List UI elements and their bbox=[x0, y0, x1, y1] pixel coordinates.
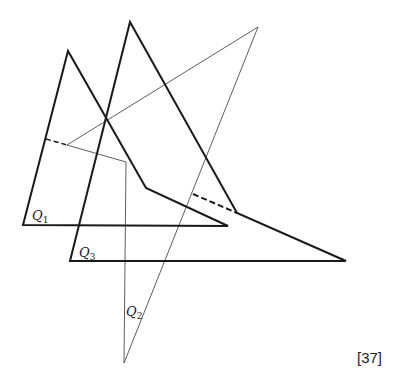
diagram-canvas: Q1 Q3 Q2 [37] bbox=[0, 0, 395, 385]
dashed-connector-right bbox=[193, 194, 237, 213]
label-q1: Q1 bbox=[32, 208, 48, 225]
label-q3: Q3 bbox=[79, 245, 96, 262]
figure-reference: [37] bbox=[357, 349, 382, 366]
dashed-connector-left bbox=[46, 139, 67, 145]
label-q2: Q2 bbox=[126, 304, 142, 321]
